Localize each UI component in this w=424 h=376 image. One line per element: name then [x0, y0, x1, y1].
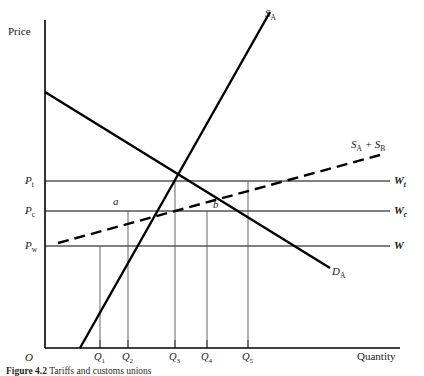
qty-label-q2-symbol: Q	[122, 351, 130, 362]
wage-label-tariff-subscript: t	[404, 180, 406, 189]
qty-label-q4-subscript: 4	[209, 357, 213, 365]
wage-label-world-symbol: W	[394, 239, 404, 251]
price-label-union-subscript: c	[32, 210, 35, 219]
curve-label-combined-supply: SA + SB	[351, 139, 385, 153]
curve-label-combined-operator: + S	[362, 138, 380, 150]
price-label-union-symbol: P	[25, 204, 32, 216]
qty-label-q1: Q1	[94, 352, 105, 365]
qty-label-q2: Q2	[122, 352, 133, 365]
point-label-b: b	[213, 199, 219, 210]
x-axis-title: Quantity	[357, 351, 396, 362]
curve-label-domestic-demand: DA	[332, 266, 345, 280]
curve-label-combined-subscript-b: B	[380, 144, 385, 153]
price-label-world-subscript: w	[32, 245, 37, 254]
wage-label-union-subscript: c	[404, 210, 407, 219]
supply-demand-chart	[0, 0, 424, 376]
wage-label-tariff: Wt	[394, 175, 406, 189]
figure-caption-number: Figure 4.2	[6, 366, 47, 376]
qty-label-q2-subscript: 2	[130, 357, 134, 365]
wage-label-world: W	[394, 240, 404, 254]
price-label-tariff-subscript: t	[32, 180, 34, 189]
curve-domestic-demand	[45, 92, 330, 268]
figure-caption: Figure 4.2 Tariffs and customs unions	[6, 366, 422, 376]
curve-label-demand-symbol: D	[332, 265, 340, 277]
qty-label-q5: Q5	[242, 352, 253, 365]
qty-label-q5-symbol: Q	[242, 351, 250, 362]
wage-label-tariff-symbol: W	[394, 174, 404, 186]
qty-label-q1-symbol: Q	[94, 351, 102, 362]
figure-container: Price Quantity O Pt Pc Pw Wt Wc W Q1 Q2 …	[0, 0, 424, 376]
qty-label-q3-symbol: Q	[169, 351, 177, 362]
curve-label-demand-subscript: A	[340, 271, 345, 280]
wage-label-union-symbol: W	[394, 204, 404, 216]
qty-label-q4: Q4	[201, 352, 212, 365]
price-label-world: Pw	[25, 240, 37, 254]
qty-label-q4-symbol: Q	[201, 351, 209, 362]
y-axis-title: Price	[8, 26, 31, 37]
curve-label-domestic-supply: SA	[265, 8, 276, 22]
figure-caption-text: Tariffs and customs unions	[49, 366, 151, 376]
origin-label: O	[25, 352, 33, 363]
price-label-tariff-symbol: P	[25, 174, 32, 186]
qty-label-q3-subscript: 3	[177, 357, 181, 365]
qty-label-q1-subscript: 1	[102, 357, 106, 365]
price-label-tariff: Pt	[25, 175, 34, 189]
curve-label-supply-subscript: A	[271, 13, 276, 22]
price-label-union: Pc	[25, 205, 35, 219]
qty-label-q3: Q3	[169, 352, 180, 365]
wage-label-union: Wc	[394, 205, 407, 219]
qty-label-q5-subscript: 5	[250, 357, 254, 365]
point-label-a: a	[113, 196, 119, 207]
price-label-world-symbol: P	[25, 239, 32, 251]
